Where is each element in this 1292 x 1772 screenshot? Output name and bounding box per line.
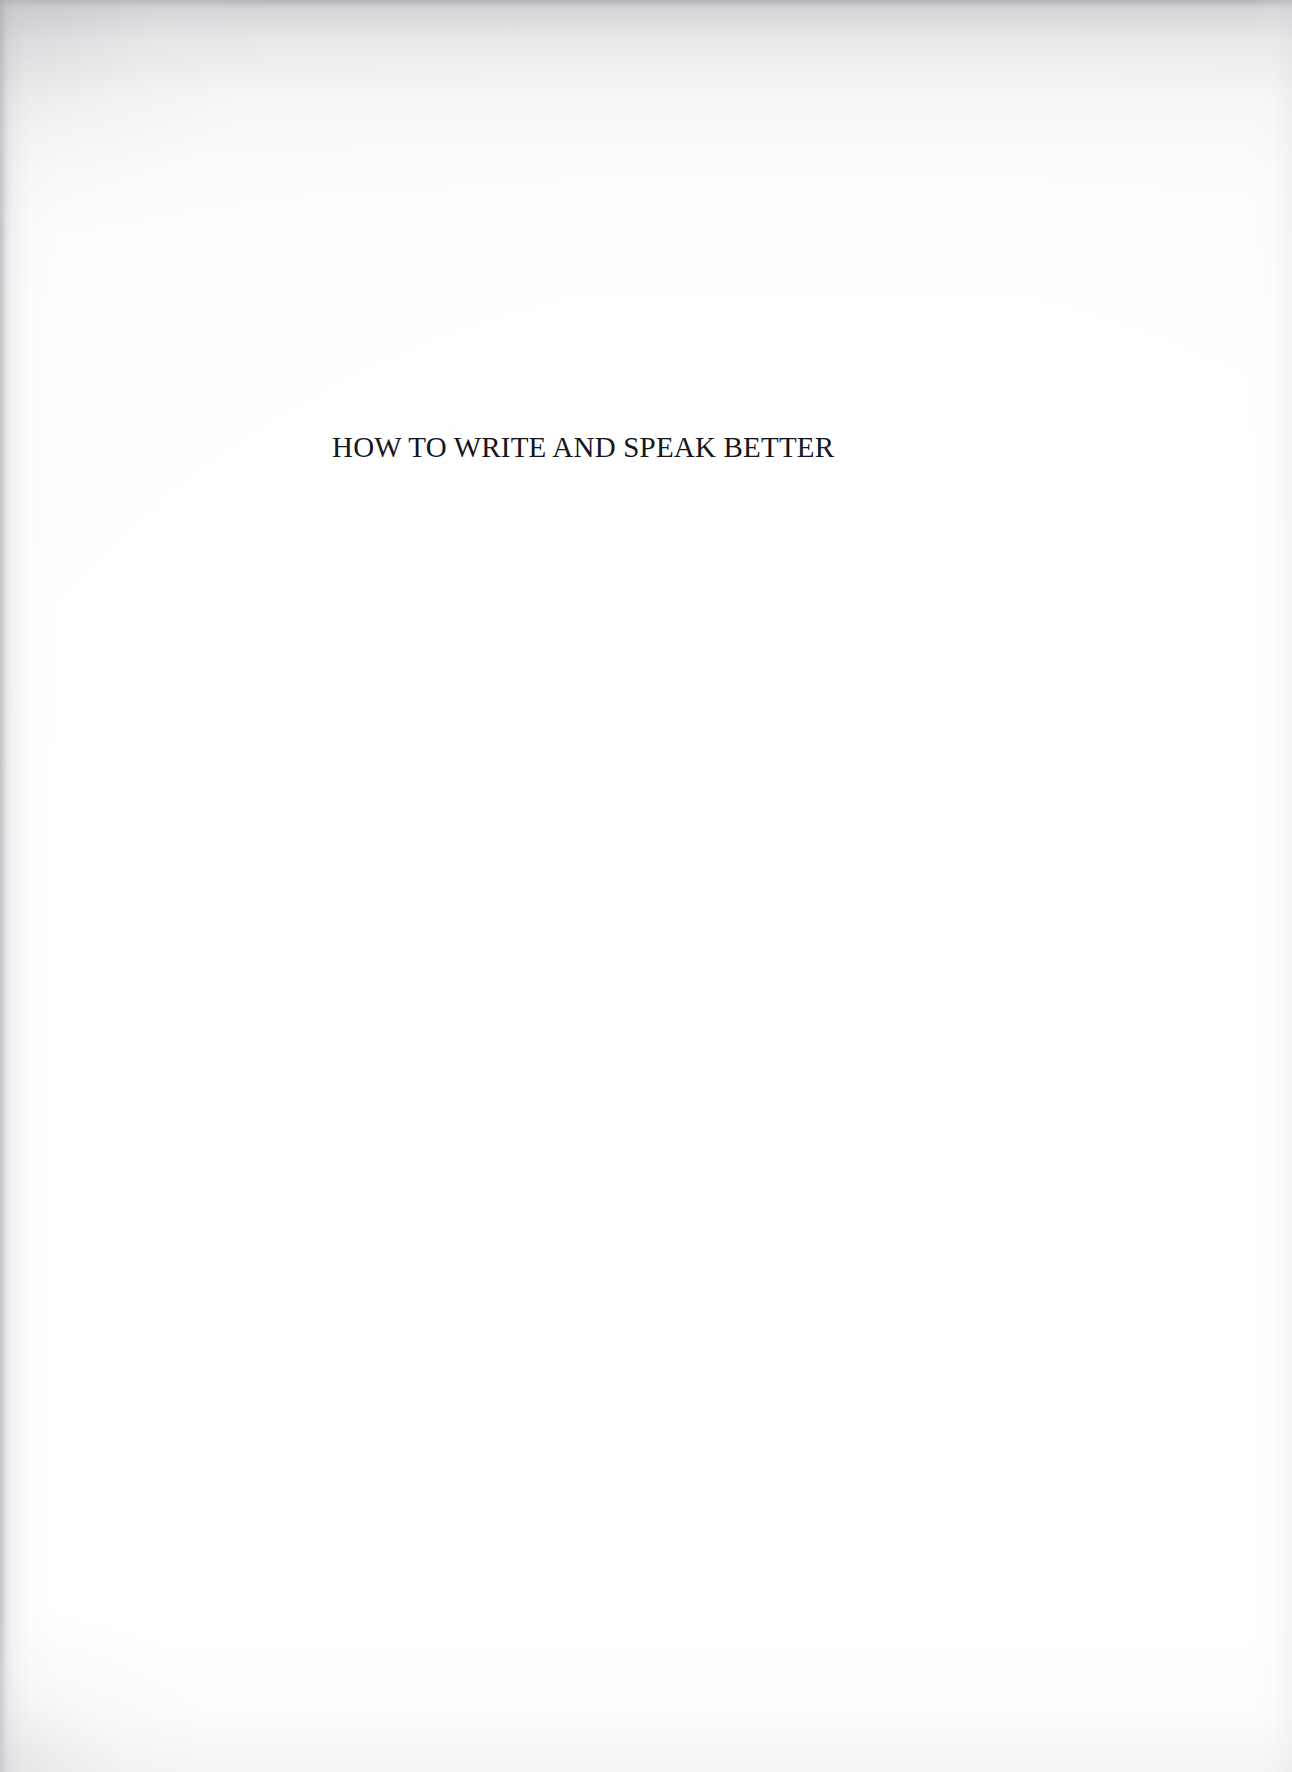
page-title: HOW TO WRITE AND SPEAK BETTER [332,432,892,464]
scanned-page: HOW TO WRITE AND SPEAK BETTER [0,0,1292,1772]
scan-dust-speckles [0,0,1292,1772]
title-block: HOW TO WRITE AND SPEAK BETTER [332,432,892,464]
